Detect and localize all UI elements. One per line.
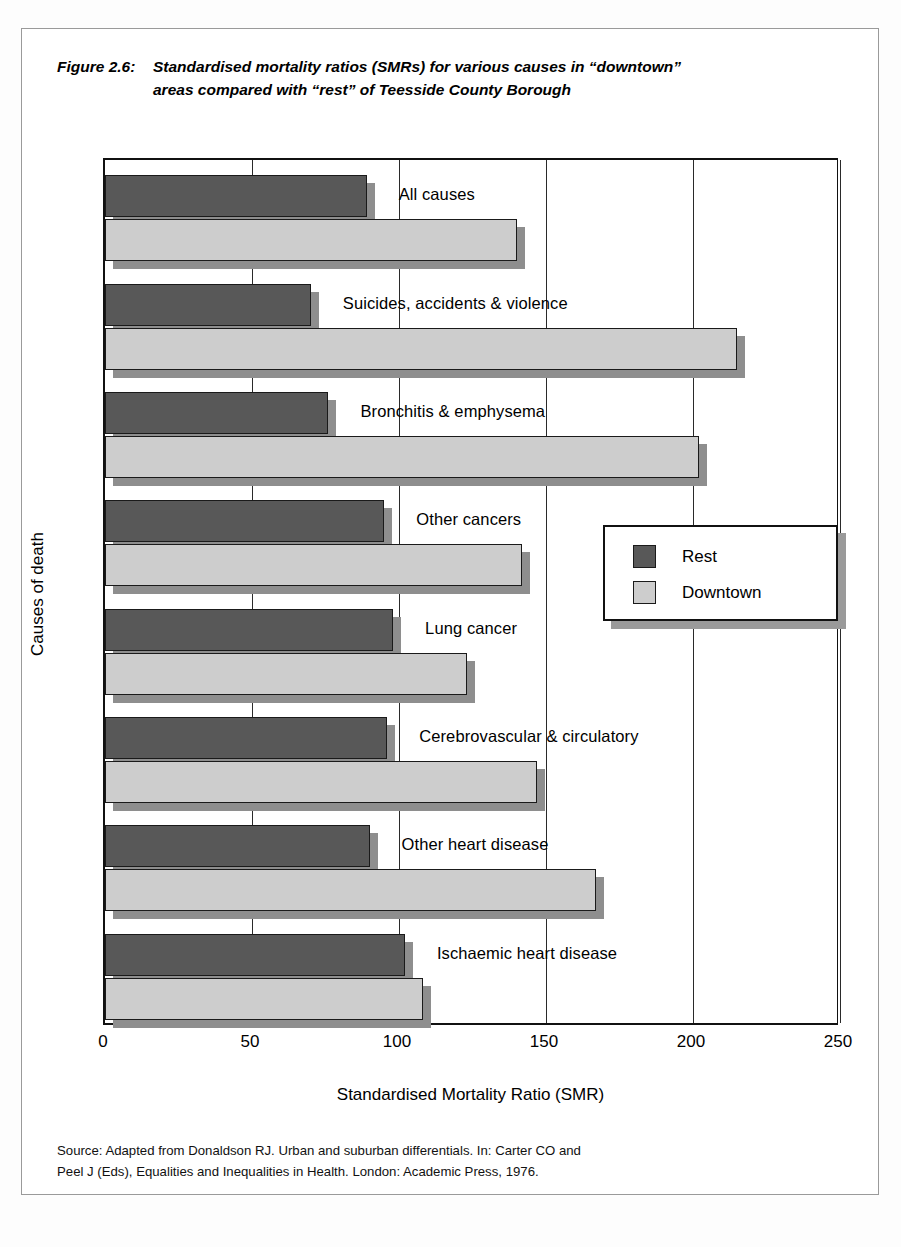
- bar-group: Bronchitis & emphysema: [105, 377, 837, 485]
- bar-group-label: Ischaemic heart disease: [437, 944, 617, 963]
- bar-group: Cerebrovascular & circulatory: [105, 702, 837, 810]
- bar-group: Ischaemic heart disease: [105, 919, 837, 1027]
- bar-downtown-0[interactable]: [105, 219, 517, 261]
- x-tick-label-50: 50: [241, 1032, 260, 1052]
- bar-rest-7[interactable]: [105, 934, 405, 976]
- chart-legend: Rest Downtown: [603, 525, 838, 621]
- x-tick-label-150: 150: [530, 1032, 558, 1052]
- x-tick-label-250: 250: [824, 1032, 852, 1052]
- bar-group-label: Suicides, accidents & violence: [343, 294, 568, 313]
- y-axis-title: Causes of death: [28, 494, 48, 694]
- x-tick-label-200: 200: [677, 1032, 705, 1052]
- bar-group-label: Lung cancer: [425, 619, 517, 638]
- bar-rest-0[interactable]: [105, 175, 367, 217]
- bar-rest-5[interactable]: [105, 717, 387, 759]
- bar-downtown-5[interactable]: [105, 761, 537, 803]
- legend-swatch-downtown: [633, 581, 656, 604]
- legend-swatch-rest: [633, 545, 656, 568]
- x-tick-label-0: 0: [98, 1032, 107, 1052]
- legend-label-rest: Rest: [682, 547, 717, 567]
- figure-page: Figure 2.6:Standardised mortality ratios…: [0, 0, 901, 1247]
- chart-area: All causesSuicides, accidents & violence…: [0, 0, 901, 1247]
- x-axis-title: Standardised Mortality Ratio (SMR): [103, 1085, 838, 1105]
- bar-rest-4[interactable]: [105, 609, 393, 651]
- bar-rest-2[interactable]: [105, 392, 328, 434]
- legend-item-rest: Rest: [633, 545, 717, 568]
- bar-rest-6[interactable]: [105, 825, 370, 867]
- bar-downtown-6[interactable]: [105, 869, 596, 911]
- bar-downtown-3[interactable]: [105, 544, 522, 586]
- bar-downtown-2[interactable]: [105, 436, 699, 478]
- bar-group: All causes: [105, 160, 837, 268]
- bar-rest-3[interactable]: [105, 500, 384, 542]
- bar-group: Other heart disease: [105, 810, 837, 918]
- source-line-1: Source: Adapted from Donaldson RJ. Urban…: [57, 1140, 837, 1161]
- bar-group-label: Other cancers: [416, 510, 521, 529]
- bar-group-label: Cerebrovascular & circulatory: [419, 727, 638, 746]
- bar-downtown-7[interactable]: [105, 978, 423, 1020]
- source-note: Source: Adapted from Donaldson RJ. Urban…: [57, 1140, 837, 1182]
- source-line-2: Peel J (Eds), Equalities and Inequalitie…: [57, 1161, 837, 1182]
- x-tick-label-100: 100: [383, 1032, 411, 1052]
- legend-item-downtown: Downtown: [633, 581, 761, 604]
- bar-rest-1[interactable]: [105, 284, 311, 326]
- bar-group: Suicides, accidents & violence: [105, 268, 837, 376]
- bar-downtown-4[interactable]: [105, 653, 467, 695]
- bar-group-label: Other heart disease: [402, 835, 549, 854]
- bar-downtown-1[interactable]: [105, 328, 737, 370]
- legend-label-downtown: Downtown: [682, 583, 761, 603]
- bar-group-label: All causes: [399, 185, 475, 204]
- bar-group-label: Bronchitis & emphysema: [360, 402, 545, 421]
